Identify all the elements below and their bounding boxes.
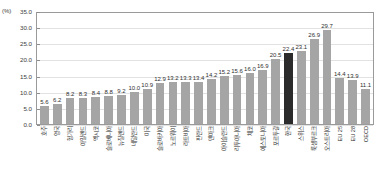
category-slot: 스위스 bbox=[295, 126, 308, 176]
category-slot: 에스토니아 bbox=[256, 126, 269, 176]
bar-highlighted: 22.4 bbox=[284, 53, 293, 124]
category-label: 스위스 bbox=[298, 126, 304, 141]
category-label: 뉴질랜드 bbox=[118, 126, 124, 146]
bar-slot: 8.8 bbox=[102, 13, 115, 124]
bar: 6.2 bbox=[53, 104, 62, 124]
bar: 9.2 bbox=[117, 95, 126, 124]
bar: 5.6 bbox=[40, 106, 49, 124]
category-label: OECD bbox=[363, 126, 369, 142]
bar-slot: 10.9 bbox=[141, 13, 154, 124]
bar-slot: 13.9 bbox=[346, 13, 359, 124]
category-slot: 미국 bbox=[141, 126, 154, 176]
category-label: 슬로바키아 bbox=[157, 126, 163, 151]
bar-value-label: 12.9 bbox=[154, 76, 166, 83]
bar-value-label: 6.2 bbox=[53, 97, 61, 104]
bar-value-label: 29.7 bbox=[321, 23, 333, 30]
category-slot: 헝가리 bbox=[64, 126, 77, 176]
bar-slot: 29.7 bbox=[321, 13, 334, 124]
bar: 14.4 bbox=[335, 78, 344, 124]
category-label: EU 28 bbox=[350, 126, 356, 142]
bar: 8.3 bbox=[79, 98, 88, 124]
category-label: 핀란드 bbox=[196, 126, 202, 141]
bar: 20.5 bbox=[271, 59, 280, 124]
bar-value-label: 20.5 bbox=[270, 52, 282, 59]
category-slot: 영국 bbox=[51, 126, 64, 176]
category-label: 포르투갈 bbox=[273, 126, 279, 146]
bar-value-label: 16.0 bbox=[244, 66, 256, 73]
bar-slot: 8.4 bbox=[89, 13, 102, 124]
category-label: 호주 bbox=[41, 126, 47, 136]
category-slot: 아이슬란드 bbox=[218, 126, 231, 176]
bar-slot: 16.0 bbox=[244, 13, 257, 124]
bar-chart: (%) 35.030.025.020.015.010.05.00.0 5.66.… bbox=[0, 0, 380, 177]
bar-slot: 6.2 bbox=[51, 13, 64, 124]
category-slot: 오스트리아 bbox=[321, 126, 334, 176]
bar-slot: 11.1 bbox=[359, 13, 372, 124]
bar-value-label: 23.1 bbox=[295, 44, 307, 51]
bar-value-label: 22.4 bbox=[283, 46, 295, 53]
category-slot: 슬로베니아 bbox=[102, 126, 115, 176]
category-slot: 호주 bbox=[38, 126, 51, 176]
x-axis-category-labels: 호주영국헝가리아일랜드멕시코슬로베니아뉴질랜드네덜란드미국슬로바키아노르웨이라트… bbox=[37, 126, 373, 176]
bar-value-label: 14.4 bbox=[334, 71, 346, 78]
bar-slot: 14.4 bbox=[333, 13, 346, 124]
bar-series: 5.66.28.28.38.48.89.210.010.912.913.213.… bbox=[37, 13, 373, 124]
bar-value-label: 8.4 bbox=[92, 90, 100, 97]
bar-slot: 23.1 bbox=[295, 13, 308, 124]
bar-value-label: 15.2 bbox=[218, 69, 230, 76]
bar-value-label: 8.8 bbox=[104, 89, 112, 96]
bar: 8.2 bbox=[66, 98, 75, 124]
bar: 29.7 bbox=[323, 30, 332, 124]
category-label: 아일랜드 bbox=[80, 126, 86, 146]
bar: 11.1 bbox=[361, 89, 370, 124]
category-slot: 핀란드 bbox=[192, 126, 205, 176]
bar-slot: 12.9 bbox=[154, 13, 167, 124]
bar-slot: 13.2 bbox=[166, 13, 179, 124]
category-label: 미국 bbox=[144, 126, 150, 136]
category-label: 노르웨이 bbox=[170, 126, 176, 146]
bar: 13.2 bbox=[169, 82, 178, 124]
bar: 16.0 bbox=[246, 73, 255, 124]
category-label: 슬로베니아 bbox=[106, 126, 112, 151]
category-label: 리투아니아 bbox=[234, 126, 240, 151]
bar: 23.1 bbox=[297, 51, 306, 124]
category-slot: OECD bbox=[359, 126, 372, 176]
category-slot: EU 25 bbox=[333, 126, 346, 176]
bar-value-label: 26.9 bbox=[308, 32, 320, 39]
bar-value-label: 16.9 bbox=[257, 63, 269, 70]
bar: 10.0 bbox=[130, 92, 139, 124]
bar: 13.3 bbox=[181, 82, 190, 124]
category-slot: 덴마크 bbox=[205, 126, 218, 176]
bar-value-label: 13.2 bbox=[167, 75, 179, 82]
bar-value-label: 15.6 bbox=[231, 68, 243, 75]
bar: 16.9 bbox=[258, 70, 267, 124]
bar: 13.4 bbox=[194, 82, 203, 124]
bar: 10.9 bbox=[143, 89, 152, 124]
category-slot: 한국 bbox=[282, 126, 295, 176]
bar: 14.2 bbox=[207, 79, 216, 124]
category-slot: 멕시코 bbox=[89, 126, 102, 176]
bar-value-label: 8.3 bbox=[79, 91, 87, 98]
category-label: 헝가리 bbox=[67, 126, 73, 141]
bar: 15.6 bbox=[233, 75, 242, 124]
category-slot: 리투아니아 bbox=[231, 126, 244, 176]
category-label: 라트비아 bbox=[183, 126, 189, 146]
category-slot: 노르웨이 bbox=[166, 126, 179, 176]
bar-slot: 15.2 bbox=[218, 13, 231, 124]
category-slot: 뉴질랜드 bbox=[115, 126, 128, 176]
bar: 13.9 bbox=[348, 80, 357, 124]
bar-value-label: 5.6 bbox=[40, 99, 48, 106]
bar-value-label: 9.2 bbox=[117, 88, 125, 95]
bar-value-label: 13.4 bbox=[193, 75, 205, 82]
bar-slot: 9.2 bbox=[115, 13, 128, 124]
category-label: 오스트리아 bbox=[324, 126, 330, 151]
category-slot: 네덜란드 bbox=[128, 126, 141, 176]
category-slot: 체코 bbox=[244, 126, 257, 176]
category-slot: 라트비아 bbox=[179, 126, 192, 176]
category-slot: 룩셈부르크 bbox=[308, 126, 321, 176]
category-label: 영국 bbox=[54, 126, 60, 136]
bar-slot: 15.6 bbox=[231, 13, 244, 124]
bar-slot: 10.0 bbox=[128, 13, 141, 124]
bar: 26.9 bbox=[310, 39, 319, 124]
category-label: 룩셈부르크 bbox=[311, 126, 317, 151]
